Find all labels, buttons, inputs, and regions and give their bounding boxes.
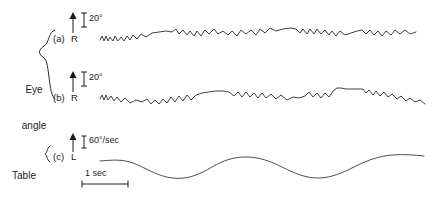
- trace-a-direction-arrow-head: [70, 12, 77, 19]
- eye-angle-label-line2: angle: [14, 120, 54, 132]
- trace-c-panel-label: (c): [53, 151, 64, 162]
- trace-b-calibration-label: 20°: [89, 72, 103, 83]
- trace-b-waveform: [100, 88, 425, 104]
- trace-b-direction-arrow-head: [70, 71, 77, 78]
- trace-c-calibration-label: 60°/sec: [89, 135, 119, 146]
- nystagmus-recording-figure: Eye angle Table velocity (a) R 20° (b) R…: [0, 0, 435, 201]
- time-scale-label: 1 sec: [85, 168, 107, 179]
- table-velocity-group-label: Table velocity: [0, 146, 48, 201]
- eye-angle-group-label: Eye angle: [14, 60, 54, 156]
- trace-b-direction-label: R: [71, 92, 78, 103]
- table-velocity-label-line1: Table: [0, 170, 48, 182]
- trace-c-direction-label: L: [71, 151, 76, 162]
- eye-angle-label-line1: Eye: [14, 84, 54, 96]
- trace-a-calibration-label: 20°: [89, 13, 103, 24]
- trace-a-panel-label: (a): [53, 33, 65, 44]
- trace-c-waveform: [100, 155, 424, 179]
- trace-b-panel-label: (b): [53, 92, 65, 103]
- trace-a-direction-label: R: [71, 33, 78, 44]
- trace-a-waveform: [100, 28, 416, 41]
- traces-canvas: [0, 0, 435, 201]
- trace-c-direction-arrow-head: [70, 133, 77, 140]
